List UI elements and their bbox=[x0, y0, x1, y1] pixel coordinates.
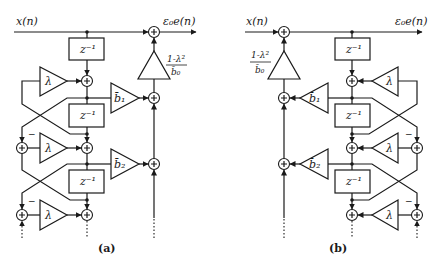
delay-label: z⁻¹ bbox=[79, 43, 96, 56]
delay-label: z⁻¹ bbox=[79, 109, 96, 122]
delay-label: z⁻¹ bbox=[79, 175, 96, 188]
delay-label: z⁻¹ bbox=[345, 43, 362, 56]
caption-b: (b) bbox=[329, 242, 347, 255]
caption-a: (a) bbox=[98, 242, 116, 255]
input-label: x(n) bbox=[246, 15, 268, 28]
lambda-label: λ bbox=[385, 209, 393, 222]
gain-label-num: 1-λ² bbox=[251, 50, 269, 60]
coef-label-b1: b̄₁ bbox=[114, 92, 125, 105]
delay-label: z⁻¹ bbox=[345, 175, 362, 188]
lambda-label: λ bbox=[44, 209, 52, 222]
gain-label-den: b̄₀ bbox=[255, 64, 265, 75]
gain-label-den: b̄₀ bbox=[171, 66, 181, 77]
coef-label-b1: b̄₁ bbox=[309, 92, 320, 105]
delay-label: z⁻¹ bbox=[345, 109, 362, 122]
gain-amp bbox=[268, 51, 300, 79]
lambda-amp bbox=[372, 67, 398, 96]
gain-amp bbox=[138, 51, 170, 79]
minus-sign: − bbox=[28, 196, 36, 206]
input-label: x(n) bbox=[16, 15, 38, 28]
lambda-label: λ bbox=[44, 142, 52, 155]
lambda-label: λ bbox=[385, 142, 393, 155]
diagram-a: x(n) ε₀e(n) z⁻¹ z⁻¹ z⁻¹ λ − bbox=[14, 15, 196, 255]
coef-label-b2: b̄₂ bbox=[114, 158, 125, 171]
minus-sign: − bbox=[28, 129, 36, 139]
minus-sign: − bbox=[405, 196, 413, 206]
output-label: ε₀e(n) bbox=[395, 15, 428, 28]
lambda-label: λ bbox=[385, 75, 393, 88]
lattice-diagrams: x(n) ε₀e(n) z⁻¹ z⁻¹ z⁻¹ λ − bbox=[0, 0, 439, 265]
minus-sign: − bbox=[405, 129, 413, 139]
diagram-b: x(n) ε₀e(n) 1-λ² b̄₀ b̄₁ b̄₂ z⁻¹ bbox=[245, 15, 428, 255]
lambda-label: λ bbox=[44, 75, 52, 88]
output-label: ε₀e(n) bbox=[163, 15, 196, 28]
coef-label-b2: b̄₂ bbox=[309, 158, 320, 171]
lambda-amp bbox=[372, 133, 398, 163]
gain-label-num: 1-λ² bbox=[167, 54, 185, 64]
lambda-amp bbox=[372, 200, 398, 230]
